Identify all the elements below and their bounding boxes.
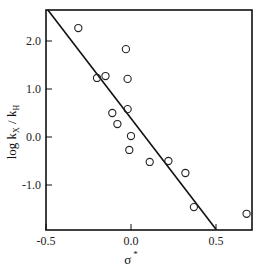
x-tick-label: 0.0 [124,234,139,248]
data-point-circle [124,106,131,113]
x-tick-label: -0.5 [37,234,56,248]
data-point-circle [122,46,129,53]
data-point-circle [243,210,250,217]
data-point-circle [165,157,172,164]
data-points [75,24,251,217]
data-point-circle [127,132,134,139]
y-tick-label: -1.0 [22,178,41,192]
data-point-circle [114,120,121,127]
data-point-circle [146,158,153,165]
data-point-circle [190,203,197,210]
data-point-circle [109,109,116,116]
data-point-circle [102,72,109,79]
y-tick-label: 1.0 [26,82,41,96]
scatter-chart: 2.01.00.0-1.0 -0.50.00.5 log kX / kH σ* [0,0,263,271]
data-point-circle [75,24,82,31]
data-point-circle [182,169,189,176]
y-tick-label: 0.0 [26,130,41,144]
x-tick-label: 0.5 [209,234,224,248]
regression-line [48,10,216,229]
fit-line [48,10,216,229]
x-axis-ticks: -0.50.00.5 [37,224,224,248]
plot-frame [46,10,252,230]
y-axis-ticks: 2.01.00.0-1.0 [22,34,52,192]
y-axis-title: log kX / kH [4,105,21,160]
data-point-circle [126,146,133,153]
data-point-circle [124,75,131,82]
y-tick-label: 2.0 [26,34,41,48]
x-axis-title: σ* [124,249,138,267]
